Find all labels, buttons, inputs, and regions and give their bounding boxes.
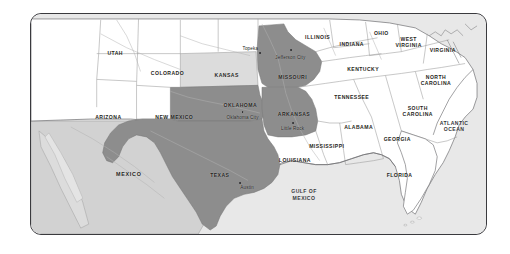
city-marker-little-rock <box>292 122 294 124</box>
map-frame[interactable]: UTAHCOLORADOARIZONANEW MEXICOKANSASOKLAH… <box>30 13 487 235</box>
city-marker-topeka <box>259 52 261 54</box>
state-fill-kansas <box>180 52 258 88</box>
city-marker-austin <box>239 182 241 184</box>
map-graphic[interactable] <box>31 14 486 234</box>
state-fill-oklahoma <box>170 85 266 121</box>
city-marker-jefferson-city <box>290 49 292 51</box>
screenshot-root: UTAHCOLORADOARIZONANEW MEXICOKANSASOKLAH… <box>0 0 510 254</box>
city-marker-oklahoma-city <box>242 111 244 113</box>
